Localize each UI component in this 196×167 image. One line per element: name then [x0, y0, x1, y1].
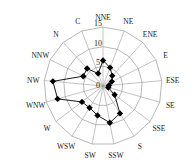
direction-label-wsw: WSW: [57, 142, 76, 151]
data-marker-nw: [50, 78, 56, 84]
spoke-ne: [103, 31, 124, 86]
direction-label-nw: NW: [27, 76, 40, 85]
direction-label-ne: NE: [123, 17, 133, 26]
radar-chart: 051015 NNENEENEEESESESSESSSWSWWSWWWNWNWN…: [0, 0, 196, 167]
direction-label-sse: SSE: [152, 124, 165, 133]
data-marker-nnw: [80, 73, 86, 79]
data-series: [50, 57, 124, 126]
direction-label-sw: SW: [85, 151, 97, 160]
tick-label-5: 5: [96, 58, 100, 67]
direction-label-se: SE: [166, 101, 175, 110]
data-marker-c: [95, 70, 101, 76]
direction-label-nnw: NNW: [31, 51, 50, 60]
tick-label-0: 0: [96, 81, 100, 90]
direction-label-ene: ENE: [143, 30, 158, 39]
spoke-ene: [103, 42, 143, 86]
direction-label-ese: ESE: [166, 76, 180, 85]
direction-label-nne: NNE: [95, 13, 111, 22]
direction-label-c: C: [75, 17, 80, 26]
direction-label-wnw: WNW: [26, 101, 46, 110]
data-marker-wnw: [54, 96, 60, 102]
direction-label-e: E: [163, 51, 168, 60]
direction-label-w: W: [44, 124, 52, 133]
direction-label-n: N: [53, 30, 59, 39]
direction-label-s: S: [138, 142, 142, 151]
tick-label-10: 10: [94, 39, 102, 48]
radial-tick-labels: 051015: [94, 19, 102, 90]
direction-label-ssw: SSW: [108, 151, 124, 160]
